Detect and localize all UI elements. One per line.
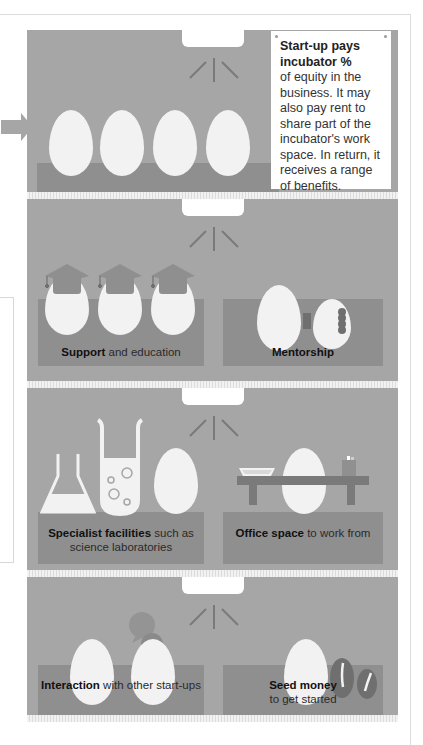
section-divider: [27, 381, 398, 388]
benefit-label-support: Support and education: [38, 345, 204, 359]
egg-icon: [49, 110, 93, 176]
clasp-icon: [337, 308, 347, 336]
benefit-text: to work from: [304, 527, 370, 539]
egg-icon: [70, 639, 114, 705]
outer-frame-top: [0, 14, 411, 15]
benefit-text: with other start-ups: [100, 679, 201, 691]
benefit-text: and education: [105, 346, 180, 358]
lamp-rays-icon: [184, 599, 244, 631]
benefit-label-seed: Seed money to get started: [223, 678, 383, 706]
benefit-label-mentorship: Mentorship: [223, 345, 383, 359]
section-facilities-office: Specialist facilities such as science la…: [27, 388, 398, 570]
benefit-bold: Office space: [236, 527, 304, 539]
benefit-bold: Seed money: [269, 679, 337, 691]
benefit-label-office: Office space to work from: [223, 526, 383, 540]
section-interaction-seed: Interaction with other start-ups Seed mo…: [27, 577, 398, 722]
connector-block: [303, 313, 311, 329]
benefit-bold: Specialist facilities: [48, 527, 151, 539]
benefit-text: to get started: [269, 693, 336, 705]
desk-icon: [237, 456, 372, 506]
benefit-label-facilities: Specialist facilities such as science la…: [38, 526, 204, 554]
graduation-cap-icon: [41, 254, 201, 299]
egg-icon: [153, 110, 197, 176]
benefit-bold: Interaction: [41, 679, 100, 691]
benefit-label-interaction: Interaction with other start-ups: [38, 678, 204, 692]
heat-lamp: [182, 388, 244, 405]
section-support-mentorship: Support and education Mentorship: [27, 199, 398, 381]
lamp-rays-icon: [184, 221, 244, 253]
section-divider: [27, 570, 398, 577]
pin-icon: [275, 35, 278, 38]
heat-lamp: [182, 30, 244, 47]
lamp-rays-icon: [184, 52, 244, 84]
note-body: of equity in the business. It may also p…: [280, 70, 380, 193]
egg-icon: [100, 110, 144, 176]
pin-icon: [384, 35, 387, 38]
benefit-bold: Support: [61, 346, 105, 358]
egg-icon: [206, 110, 250, 176]
heat-lamp: [182, 577, 244, 594]
section-divider: [27, 715, 398, 722]
egg-icon: [257, 285, 301, 351]
benefit-bold: Mentorship: [272, 346, 334, 358]
outer-frame-right: [410, 14, 411, 745]
side-box-outline: [0, 297, 14, 563]
heat-lamp: [182, 199, 244, 216]
note-title: Start-up pays incubator %: [280, 39, 385, 70]
equity-note-card: Start-up pays incubator % of equity in t…: [271, 31, 391, 189]
